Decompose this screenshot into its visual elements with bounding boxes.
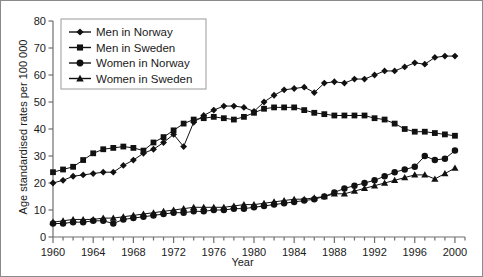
data-point	[100, 146, 106, 152]
data-point	[381, 68, 388, 75]
legend: Men in NorwayMen in SwedenWomen in Norwa…	[61, 19, 206, 89]
data-point	[451, 165, 458, 171]
data-point	[331, 78, 338, 85]
data-point	[291, 105, 297, 111]
data-point	[80, 157, 86, 163]
data-point	[110, 220, 116, 226]
data-point	[271, 92, 278, 99]
data-point	[130, 157, 137, 164]
data-point	[422, 153, 428, 159]
data-point	[90, 170, 97, 177]
data-point	[131, 145, 137, 151]
data-point	[60, 167, 66, 173]
data-point	[452, 53, 459, 60]
data-point	[362, 113, 368, 119]
line-chart: 0102030405060708019601964196819721976198…	[1, 1, 483, 277]
data-point	[70, 173, 77, 180]
data-point	[301, 107, 307, 113]
legend-label: Men in Norway	[96, 26, 173, 38]
data-point	[110, 145, 116, 151]
data-point	[421, 61, 428, 68]
data-point	[231, 117, 237, 123]
data-point	[50, 169, 56, 175]
data-point	[402, 126, 408, 132]
data-point	[60, 177, 67, 184]
data-point	[412, 164, 418, 170]
y-tick-label: 20	[34, 177, 46, 189]
series-men-in-sweden	[50, 105, 458, 176]
data-point	[221, 115, 227, 121]
data-point	[251, 110, 257, 116]
data-point	[321, 111, 327, 117]
data-point	[271, 105, 277, 111]
data-point	[80, 172, 87, 179]
data-point	[452, 133, 458, 139]
data-point	[120, 162, 127, 169]
data-point	[432, 157, 438, 163]
y-tick-label: 0	[40, 231, 46, 243]
data-point	[161, 134, 167, 140]
data-point	[171, 127, 177, 133]
legend-label: Men in Sweden	[96, 42, 175, 54]
data-point	[442, 53, 449, 60]
data-point	[77, 60, 84, 67]
data-point	[211, 114, 217, 120]
data-point	[151, 140, 157, 146]
data-point	[431, 175, 438, 181]
data-point	[331, 113, 337, 119]
series-line	[53, 168, 455, 222]
data-point	[401, 64, 408, 71]
y-tick-label: 50	[34, 96, 46, 108]
data-point	[230, 103, 237, 110]
data-point	[110, 169, 117, 176]
data-point	[442, 155, 448, 161]
data-point	[372, 115, 378, 121]
series-line	[53, 107, 455, 172]
data-point	[441, 170, 448, 176]
data-point	[210, 107, 217, 114]
data-point	[120, 144, 126, 150]
y-tick-label: 30	[34, 150, 46, 162]
data-point	[412, 129, 418, 135]
data-point	[90, 150, 96, 156]
y-tick-label: 70	[34, 42, 46, 54]
data-point	[422, 129, 428, 135]
data-point	[281, 86, 288, 93]
legend-label: Women in Norway	[96, 57, 190, 69]
y-ticks: 01020304050607080	[34, 15, 53, 243]
data-point	[392, 121, 398, 127]
data-point	[342, 113, 348, 119]
data-point	[281, 105, 287, 111]
data-point	[201, 115, 207, 121]
data-point	[442, 132, 448, 138]
data-point	[241, 114, 247, 120]
data-point	[371, 72, 378, 79]
data-point	[381, 173, 387, 179]
data-point	[431, 54, 438, 61]
x-ticks: 1960196419681972197619801984198819921996…	[41, 237, 467, 258]
data-point	[191, 117, 197, 123]
data-point	[241, 104, 248, 111]
data-point	[261, 106, 267, 112]
series-women-in-norway	[50, 147, 458, 226]
data-point	[391, 68, 398, 75]
data-point	[352, 113, 358, 119]
data-point	[432, 130, 438, 136]
data-point	[311, 110, 317, 116]
x-axis-title: Year	[1, 256, 483, 268]
y-tick-label: 60	[34, 69, 46, 81]
y-axis-title: Age standardised rates per 100 000	[17, 27, 29, 227]
data-point	[382, 117, 388, 123]
data-point	[100, 169, 107, 176]
data-point	[391, 169, 397, 175]
data-point	[291, 85, 298, 92]
y-tick-label: 10	[34, 204, 46, 216]
y-tick-label: 40	[34, 123, 46, 135]
series-line	[53, 151, 455, 224]
data-point	[361, 76, 368, 83]
data-point	[70, 164, 76, 170]
data-point	[452, 147, 458, 153]
y-tick-label: 80	[34, 15, 46, 27]
data-point	[411, 59, 418, 66]
data-point	[150, 146, 157, 153]
